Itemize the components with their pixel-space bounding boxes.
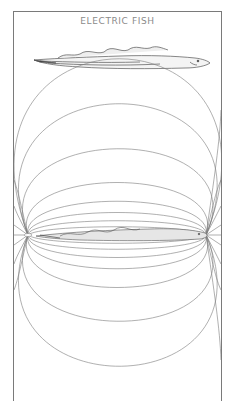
fish-illustration-top	[34, 47, 210, 69]
field-lines	[14, 59, 222, 367]
